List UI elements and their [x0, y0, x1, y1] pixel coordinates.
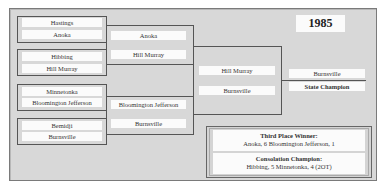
qf1-team-a: Hastings	[22, 18, 102, 27]
third-place-title: Third Place Winner:	[213, 132, 365, 140]
year-label: 1985	[296, 15, 345, 32]
champion-connector	[281, 80, 366, 81]
sf2-team-a: Bloomington Jefferson	[111, 100, 186, 109]
qf1-team-b: Anoka	[22, 30, 102, 39]
qf2-team-a: Hibbing	[22, 52, 102, 61]
qf4-team-a: Bemidji	[22, 121, 102, 130]
consolation-result: Hibbing, 5 Minnetonka, 4 (2OT)	[213, 163, 365, 171]
third-place-result: Anoka, 6 Bloomington Jefferson, 1	[213, 140, 365, 148]
consolation-box: Consolation Champion: Hibbing, 5 Minneto…	[213, 153, 365, 174]
qf4-team-b: Burnsville	[22, 132, 102, 141]
sf1-team-a: Anoka	[111, 31, 186, 40]
final	[193, 46, 282, 115]
sf2-team-b: Burnsville	[111, 119, 186, 128]
consolation-title: Consolation Champion:	[213, 155, 365, 163]
qf3-team-a: Minnetonka	[22, 87, 102, 96]
champion-label: State Champion	[289, 82, 365, 91]
final-team-b: Burnsville	[199, 86, 275, 95]
sf1-team-b: Hill Murray	[111, 50, 186, 59]
third-place-box: Third Place Winner: Anoka, 6 Bloomington…	[213, 130, 365, 151]
qf2-team-b: Hill Murray	[22, 64, 102, 73]
qf3-team-b: Bloomington Jefferson	[22, 98, 102, 107]
champion-team: Burnsville	[289, 69, 365, 78]
final-team-a: Hill Murray	[199, 66, 275, 75]
